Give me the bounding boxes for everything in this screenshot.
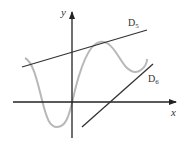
function-diagram: y x D5 D6: [0, 0, 182, 142]
diagram-canvas: y x D5 D6: [0, 0, 182, 142]
line-d5-label: D5: [128, 17, 139, 30]
function-curve: [25, 42, 147, 127]
x-axis-label: x: [170, 106, 176, 118]
line-d6-label: D6: [148, 73, 159, 86]
line-d6: [82, 64, 153, 127]
y-axis-label: y: [60, 6, 66, 18]
